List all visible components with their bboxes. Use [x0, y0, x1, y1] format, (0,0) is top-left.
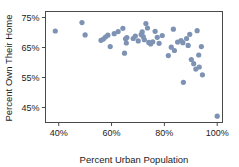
- data-point: [145, 25, 150, 30]
- data-point: [155, 35, 160, 40]
- data-point: [108, 44, 113, 49]
- data-point: [116, 29, 121, 34]
- y-tick-label: 75%: [21, 13, 39, 23]
- data-point: [199, 44, 204, 49]
- data-point: [160, 33, 165, 38]
- data-point: [136, 38, 141, 43]
- data-point-series: [53, 20, 220, 119]
- data-point: [200, 72, 205, 77]
- y-axis-ticks: [42, 18, 46, 108]
- y-tick-label: 65%: [21, 43, 39, 53]
- data-point: [191, 61, 196, 66]
- data-point: [215, 114, 220, 119]
- y-tick-label: 55%: [21, 73, 39, 83]
- data-point: [79, 20, 84, 25]
- x-axis-ticks: [59, 123, 218, 127]
- data-point: [196, 52, 201, 57]
- scatter-plot-figure: 45%55%65%75% 40%60%80%100% Percent Urban…: [0, 0, 239, 167]
- data-point: [153, 29, 158, 34]
- data-point: [186, 43, 191, 48]
- data-point: [53, 28, 58, 33]
- data-point: [180, 40, 185, 45]
- x-tick-label: 60%: [103, 128, 121, 138]
- x-axis-title: Percent Urban Population: [80, 154, 189, 165]
- y-axis-title: Percent Own Their Home: [3, 14, 14, 121]
- data-point: [120, 26, 125, 31]
- data-point: [181, 80, 186, 85]
- x-tick-label: 40%: [50, 128, 68, 138]
- data-point: [105, 33, 110, 38]
- data-point: [133, 34, 138, 39]
- data-point: [197, 64, 202, 69]
- data-point: [83, 32, 88, 37]
- data-point: [150, 39, 155, 44]
- x-tick-label: 80%: [155, 128, 173, 138]
- data-point: [166, 53, 171, 58]
- data-point: [157, 41, 162, 46]
- data-point: [143, 21, 148, 26]
- data-point: [124, 40, 129, 45]
- data-point: [187, 32, 192, 37]
- data-point: [172, 48, 177, 53]
- data-point: [122, 51, 127, 56]
- data-point: [142, 37, 147, 42]
- data-point: [124, 35, 129, 40]
- x-axis-tick-labels: 40%60%80%100%: [50, 128, 229, 138]
- x-tick-label: 100%: [206, 128, 229, 138]
- chart-canvas: 45%55%65%75% 40%60%80%100% Percent Urban…: [0, 0, 239, 167]
- data-point: [171, 27, 176, 32]
- data-point: [195, 28, 200, 33]
- data-point: [184, 36, 189, 41]
- y-axis-tick-labels: 45%55%65%75%: [21, 13, 39, 113]
- y-tick-label: 45%: [21, 103, 39, 113]
- data-point: [140, 29, 145, 34]
